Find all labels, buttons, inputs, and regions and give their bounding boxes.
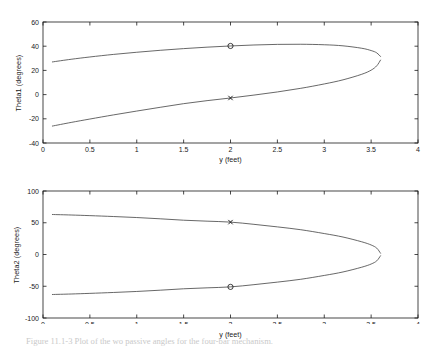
y-tick-label: 0 (35, 91, 39, 98)
x-tick-label: 4 (416, 146, 420, 153)
x-tick-label: 2.5 (273, 321, 283, 324)
x-tick-label: 2 (229, 146, 233, 153)
x-tick-label: 3.5 (366, 146, 376, 153)
y-tick-label: 60 (31, 19, 39, 26)
figure-container: 00.511.522.533.54-40-200204060 Theta1 (d… (0, 0, 441, 348)
x-tick-label: 1.5 (179, 321, 189, 324)
axes-frame (43, 191, 418, 318)
y-tick-label: -100 (25, 315, 39, 322)
x-tick-label: 3 (322, 321, 326, 324)
x-tick-label: 1 (135, 321, 139, 324)
y-tick-label: 20 (31, 67, 39, 74)
y-tick-label: -20 (29, 115, 39, 122)
y-tick-label: -50 (29, 283, 39, 290)
data-curve-upper-branch (52, 44, 380, 62)
y-tick-label: -40 (29, 140, 39, 147)
x-tick-label: 1.5 (179, 146, 189, 153)
x-tick-label: 1 (135, 146, 139, 153)
x-tick-label: 2 (229, 321, 233, 324)
y-tick-label: 50 (31, 219, 39, 226)
x-tick-label: 2.5 (273, 146, 283, 153)
theta2-plot-area: 00.511.522.533.54-100-50050100 (0, 172, 441, 324)
x-tick-label: 0.5 (85, 321, 95, 324)
chart-theta1: 00.511.522.533.54-40-200204060 Theta1 (d… (0, 0, 441, 175)
x-tick-label: 0 (41, 146, 45, 153)
theta1-x-axis-label: y (feet) (43, 155, 418, 164)
data-curve-lower-branch (52, 256, 380, 295)
y-tick-label: 0 (35, 251, 39, 258)
x-tick-label: 0.5 (85, 146, 95, 153)
y-tick-label: 100 (27, 188, 39, 195)
data-curve-upper-branch (52, 215, 380, 254)
x-tick-label: 3 (322, 146, 326, 153)
theta1-plot-area: 00.511.522.533.54-40-200204060 (0, 0, 441, 175)
x-tick-label: 0 (41, 321, 45, 324)
chart-theta2: 00.511.522.533.54-100-50050100 Theta2 (d… (0, 172, 441, 324)
x-tick-label: 4 (416, 321, 420, 324)
x-tick-label: 3.5 (366, 321, 376, 324)
figure-caption: Figure 11.1-3 Plot of the wo passive ang… (26, 336, 426, 346)
axes-frame (43, 22, 418, 143)
data-curve-lower-branch (52, 60, 380, 126)
y-tick-label: 40 (31, 43, 39, 50)
